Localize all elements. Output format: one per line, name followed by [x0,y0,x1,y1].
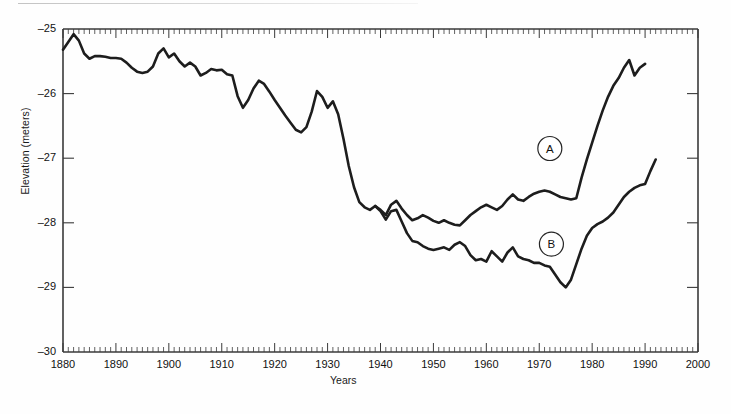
x-tick-label: 1890 [86,358,146,370]
annotation-label-A: A [546,143,554,155]
x-tick-label: 2000 [668,358,728,370]
x-tick-label: 1910 [192,358,252,370]
x-tick-label: 1900 [139,358,199,370]
y-tick-label: –28 [18,216,56,228]
y-tick-label: –25 [18,22,56,34]
figure-container: AB Elevation (meters) Years –25–26–27–28… [0,0,731,414]
y-tick-label: –29 [18,280,56,292]
line-chart: AB [0,0,731,414]
y-tick-label: –27 [18,151,56,163]
x-tick-label: 1970 [509,358,569,370]
y-tick-label: –26 [18,87,56,99]
x-tick-label: 1920 [245,358,305,370]
x-tick-label: 1930 [298,358,358,370]
series-line-B [375,159,655,287]
y-tick-label: –30 [18,345,56,357]
x-tick-label: 1950 [403,358,463,370]
x-tick-label: 1880 [33,358,93,370]
x-tick-label: 1990 [615,358,675,370]
x-axis-title: Years [330,374,356,386]
series-line-A [63,34,645,225]
x-tick-label: 1980 [562,358,622,370]
x-tick-label: 1940 [351,358,411,370]
x-tick-label: 1960 [456,358,516,370]
annotation-label-B: B [548,238,556,250]
